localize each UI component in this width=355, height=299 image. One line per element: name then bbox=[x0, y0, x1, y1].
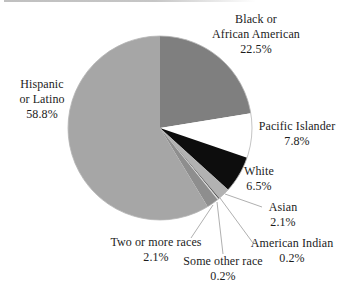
label-some-other-race: Some other race 0.2% bbox=[183, 254, 262, 284]
label-line: Some other race bbox=[183, 254, 262, 269]
label-value: 22.5% bbox=[212, 42, 300, 57]
label-value: 58.8% bbox=[19, 107, 64, 122]
label-american-indian: American Indian 0.2% bbox=[251, 236, 333, 266]
leader-line-some-other-race bbox=[217, 202, 223, 254]
label-line: African American bbox=[212, 27, 300, 42]
label-black-or-african-american: Black or African American 22.5% bbox=[212, 12, 300, 57]
label-value: 0.2% bbox=[183, 269, 262, 284]
label-line: Hispanic bbox=[19, 77, 64, 92]
label-line: Black or bbox=[212, 12, 300, 27]
label-line: White bbox=[244, 164, 274, 179]
label-asian: Asian 2.1% bbox=[269, 200, 298, 230]
label-pacific-islander: Pacific Islander 7.8% bbox=[259, 119, 336, 149]
pie-chart-figure: Black or African American 22.5% Hispanic… bbox=[0, 0, 355, 299]
label-value: 0.2% bbox=[251, 251, 333, 266]
label-value: 6.5% bbox=[244, 179, 274, 194]
label-line: Asian bbox=[269, 200, 298, 215]
label-line: Two or more races bbox=[110, 235, 201, 250]
label-line: Pacific Islander bbox=[259, 119, 336, 134]
leader-line-american-indian bbox=[220, 198, 253, 243]
label-value: 7.8% bbox=[259, 134, 336, 149]
label-line: or Latino bbox=[19, 92, 64, 107]
label-white: White 6.5% bbox=[244, 164, 274, 194]
pie-slices bbox=[68, 36, 252, 220]
label-value: 2.1% bbox=[269, 215, 298, 230]
label-line: American Indian bbox=[251, 236, 333, 251]
leader-line-asian bbox=[225, 194, 262, 207]
label-hispanic-or-latino: Hispanic or Latino 58.8% bbox=[19, 77, 64, 122]
